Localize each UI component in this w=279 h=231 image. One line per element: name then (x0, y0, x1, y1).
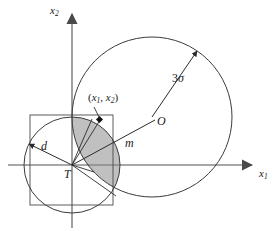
target-point-label: T (64, 168, 71, 180)
radius-d-arrow (29, 144, 72, 165)
axes-group (8, 14, 252, 228)
sample-point-leader (94, 107, 99, 117)
radius-3sigma-label: 3σ (172, 72, 184, 84)
sample-point-marker (96, 116, 103, 123)
figure-canvas (0, 0, 279, 231)
big-circle-center-label: O (157, 115, 166, 127)
x-axis-label: x1 (259, 168, 268, 179)
geometry-figure: x2 x1 (x1, x2) 3σ O m d T (0, 0, 279, 231)
sample-point-label: (x1, x2) (88, 92, 118, 103)
distance-d-label: d (41, 140, 47, 152)
distance-m-label: m (125, 137, 134, 149)
y-axis-label: x2 (50, 5, 59, 16)
